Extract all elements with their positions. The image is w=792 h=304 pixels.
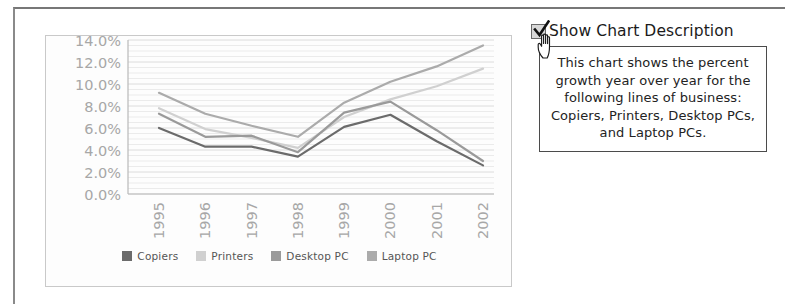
y-axis-tick-label: 14.0% — [75, 36, 121, 49]
legend-label: Printers — [211, 250, 253, 262]
chart-legend[interactable]: CopiersPrintersDesktop PCLaptop PC — [46, 250, 513, 262]
chart-series-lines[interactable] — [159, 46, 483, 166]
legend-item-copiers[interactable]: Copiers — [122, 250, 178, 262]
description-panel: Show Chart Description This chart shows … — [531, 22, 775, 152]
x-axis-tick-label: 1997 — [244, 202, 260, 239]
legend-swatch — [367, 251, 377, 261]
x-axis-tick-label: 1996 — [197, 202, 213, 239]
y-axis-tick-label: 4.0% — [84, 143, 121, 159]
legend-swatch — [271, 251, 281, 261]
series-line-desktop-pc[interactable] — [159, 102, 483, 161]
x-axis-tick-label: 2000 — [382, 202, 398, 239]
y-axis-tick-label: 2.0% — [84, 165, 121, 181]
legend-label: Desktop PC — [286, 250, 348, 262]
legend-swatch — [122, 251, 132, 261]
legend-label: Laptop PC — [382, 250, 437, 262]
legend-swatch — [196, 251, 206, 261]
app-frame: 0.0%2.0%4.0%6.0%8.0%10.0%12.0%14.0% 1995… — [13, 7, 785, 304]
legend-label: Copiers — [137, 250, 178, 262]
x-axis-tick-label: 1998 — [290, 202, 306, 239]
checkmark-icon — [533, 20, 550, 39]
chart-panel: 0.0%2.0%4.0%6.0%8.0%10.0%12.0%14.0% 1995… — [45, 35, 512, 287]
chart-y-axis-labels: 0.0%2.0%4.0%6.0%8.0%10.0%12.0%14.0% — [75, 36, 121, 203]
y-axis-tick-label: 0.0% — [84, 187, 121, 203]
show-chart-description-row[interactable]: Show Chart Description — [531, 22, 775, 41]
y-axis-tick-label: 12.0% — [75, 55, 121, 71]
show-chart-description-checkbox[interactable] — [531, 24, 546, 39]
x-axis-tick-label: 1999 — [336, 202, 352, 239]
legend-item-desktop-pc[interactable]: Desktop PC — [271, 250, 348, 262]
y-axis-tick-label: 6.0% — [84, 121, 121, 137]
legend-item-printers[interactable]: Printers — [196, 250, 253, 262]
y-axis-tick-label: 8.0% — [84, 99, 121, 115]
x-axis-tick-label: 2001 — [429, 202, 445, 239]
chart-description-text: This chart shows the percent growth year… — [548, 54, 758, 142]
y-axis-tick-label: 10.0% — [75, 77, 121, 93]
show-chart-description-label: Show Chart Description — [549, 22, 734, 41]
x-axis-tick-label: 1995 — [151, 202, 167, 239]
chart-description-box: This chart shows the percent growth year… — [539, 46, 767, 152]
series-line-laptop-pc[interactable] — [159, 46, 483, 137]
chart-gridlines — [128, 40, 494, 194]
x-axis-tick-label: 2002 — [475, 202, 491, 239]
chart-x-axis-labels: 19951996199719981999200020012002 — [151, 202, 491, 239]
legend-item-laptop-pc[interactable]: Laptop PC — [367, 250, 437, 262]
